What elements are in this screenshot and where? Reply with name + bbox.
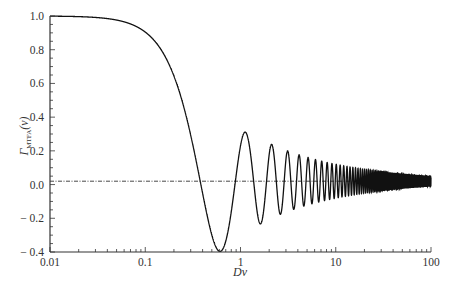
y-axis-title-sub: MTFA (25, 130, 33, 149)
x-ticks (50, 247, 431, 252)
x-tick-label: 10 (330, 256, 342, 268)
y-axis-title-arg: (v) (17, 116, 31, 129)
plot-area (50, 16, 431, 251)
y-tick-label: − 0.2 (20, 212, 44, 224)
axes: 0.010.1110100 1.00.80.60.40.20.0− 0.2− 0… (20, 10, 440, 268)
x-tick-label: 100 (422, 256, 440, 268)
y-tick-label: 0.4 (30, 111, 45, 123)
y-tick-label: 1.0 (30, 10, 45, 22)
y-tick-label: 0.0 (30, 179, 45, 191)
y-tick-label: 0.6 (30, 77, 45, 89)
y-ticks (50, 16, 55, 252)
y-tick-label: − 0.4 (20, 246, 44, 258)
y-axis-title: ΓMTFA(v) (17, 116, 33, 156)
x-tick-label: 0.1 (138, 256, 153, 268)
chart: 0.010.1110100 1.00.80.60.40.20.0− 0.2− 0… (0, 0, 450, 290)
data-series-curve (50, 16, 431, 251)
y-tick-label: 0.8 (30, 44, 45, 56)
x-axis-title: Dv (232, 265, 248, 279)
